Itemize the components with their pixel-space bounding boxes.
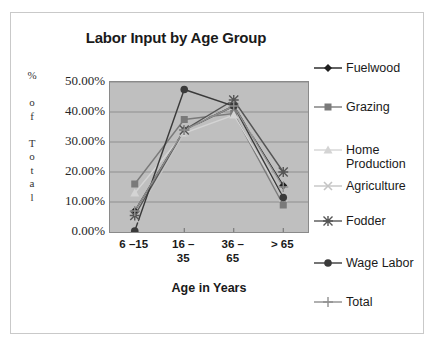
x-marker-icon: [313, 179, 343, 193]
x-axis-tick-label: 6 –15: [108, 237, 160, 251]
data-point-plus: [323, 297, 333, 307]
legend-item-label: Fodder: [346, 214, 386, 228]
series-lines-svg: [110, 82, 308, 232]
legend-item-label: Fuelwood: [346, 61, 400, 75]
data-point-star: [323, 216, 333, 226]
y-axis-tick-label: 40.00%: [43, 103, 105, 119]
data-point-circle: [324, 259, 332, 267]
x-axis-tick-label: 36 – 65: [207, 237, 259, 265]
legend-item-grazing[interactable]: Grazing: [313, 100, 390, 116]
diamond-marker-icon: [313, 61, 343, 75]
triangle-marker-icon: [313, 143, 343, 157]
y-axis-tick-labels: 50.00%40.00%30.00%20.00%10.00%0.00%: [43, 73, 105, 233]
data-point-square: [325, 104, 332, 111]
chart-container: Labor Input by Age Group % o f T o t a l…: [10, 12, 424, 334]
legend-item-wage-labor[interactable]: Wage Labor: [313, 256, 414, 272]
legend-item-fuelwood[interactable]: Fuelwood: [313, 61, 400, 77]
data-point-circle: [180, 86, 188, 94]
data-point-square: [280, 202, 287, 209]
series-line: [135, 106, 284, 211]
data-point-circle: [279, 194, 287, 202]
series-line: [135, 106, 284, 211]
circle-marker-icon: [313, 256, 343, 270]
x-axis-title: Age in Years: [103, 281, 315, 295]
data-point-star: [278, 167, 288, 177]
legend-item-label: Grazing: [346, 100, 390, 114]
x-axis-tick-label: 16 – 35: [157, 237, 209, 265]
series-line: [135, 99, 284, 219]
plot-area: [109, 81, 309, 233]
legend-item-fodder[interactable]: Fodder: [313, 214, 386, 230]
x-axis-tick-labels: 6 –1516 – 3536 – 65> 65: [103, 237, 315, 277]
y-axis-tick-label: 20.00%: [43, 163, 105, 179]
legend-item-label: Home Production: [346, 143, 406, 171]
data-point-square: [131, 181, 138, 188]
legend-item-agriculture[interactable]: Agriculture: [313, 179, 406, 195]
legend-item-label: Total: [346, 295, 372, 309]
legend-item-label: Agriculture: [346, 179, 406, 193]
y-axis-title: % o f T o t a l: [23, 69, 41, 204]
plus-marker-icon: [313, 295, 343, 309]
y-axis-tick-label: 30.00%: [43, 133, 105, 149]
legend-item-total[interactable]: Total: [313, 295, 372, 311]
chart-title: Labor Input by Age Group: [11, 29, 341, 46]
data-point-diamond: [324, 64, 332, 72]
y-axis-tick-label: 0.00%: [43, 223, 105, 239]
square-marker-icon: [313, 100, 343, 114]
legend-item-label: Wage Labor: [346, 256, 414, 270]
y-axis-tick-label: 50.00%: [43, 73, 105, 89]
data-point-circle: [131, 227, 139, 232]
star-marker-icon: [313, 214, 343, 228]
x-axis-tick-label: > 65: [256, 237, 308, 251]
legend-item-home-production[interactable]: Home Production: [313, 143, 406, 159]
y-axis-tick-label: 10.00%: [43, 193, 105, 209]
data-point-square: [181, 116, 188, 123]
